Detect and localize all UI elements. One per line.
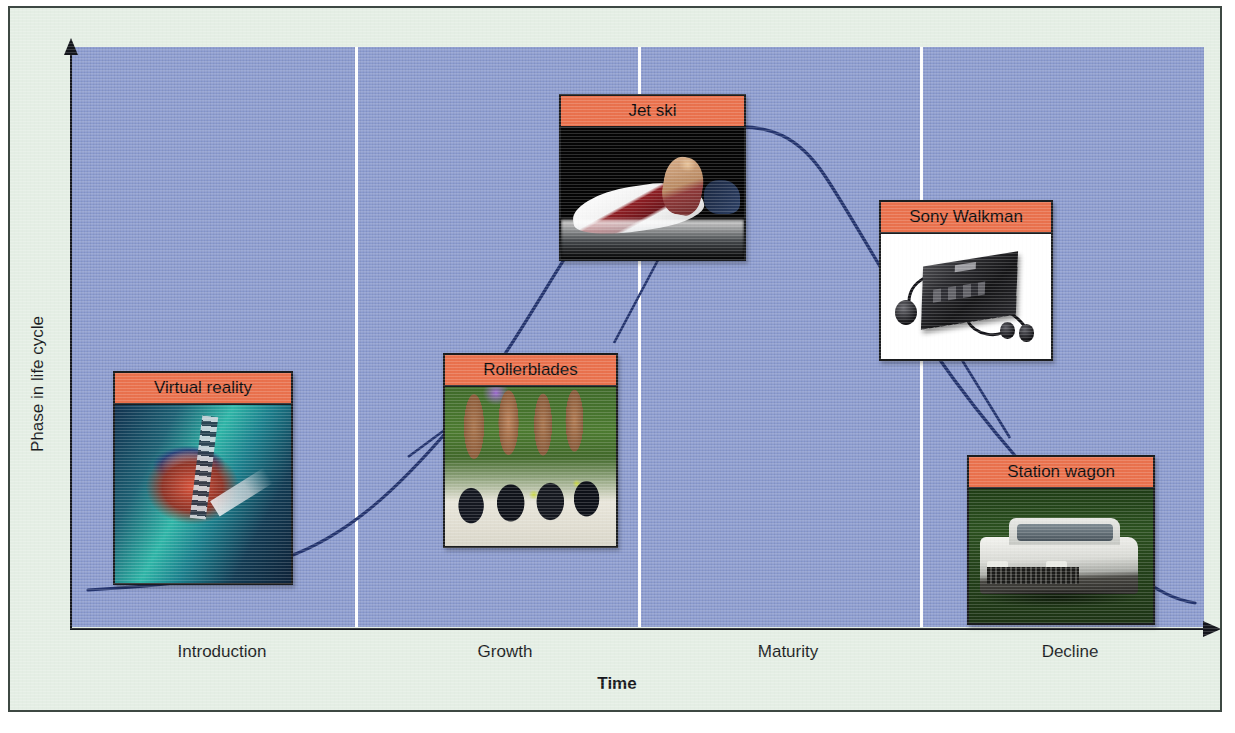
walkman-earbud-right-2	[1019, 324, 1034, 342]
card-title-jet-ski: Jet ski	[561, 96, 744, 128]
phase-divider-introduction-growth	[355, 47, 358, 627]
jet-ski-rear-shape	[704, 180, 741, 214]
x-axis-title: Time	[10, 674, 1222, 694]
station-wagon-shadow	[976, 591, 1138, 607]
x-tick-label-decline: Decline	[960, 642, 1180, 662]
y-axis-title: Phase in life cycle	[28, 299, 48, 469]
y-axis-line	[70, 53, 72, 630]
card-rollerblades[interactable]: Rollerblades	[443, 353, 618, 548]
jet-ski-rider-figure	[659, 154, 709, 218]
x-axis-line	[70, 628, 1205, 630]
walkman-earbud-left	[895, 300, 917, 325]
card-sony-walkman[interactable]: Sony Walkman	[879, 200, 1053, 361]
station-wagon-car-photo	[969, 489, 1153, 623]
card-title-station-wagon: Station wagon	[969, 457, 1153, 489]
jet-ski-rider-photo	[561, 128, 744, 259]
virtual-reality-headset-photo	[115, 405, 291, 583]
product-life-cycle-figure: Phase in life cycle Introduction Growth …	[8, 6, 1222, 712]
x-tick-label-growth: Growth	[395, 642, 615, 662]
station-wagon-windshield	[1017, 524, 1113, 541]
sony-walkman-cassette-player-photo	[881, 234, 1051, 359]
x-tick-label-maturity: Maturity	[678, 642, 898, 662]
card-station-wagon[interactable]: Station wagon	[967, 455, 1155, 625]
card-jet-ski[interactable]: Jet ski	[559, 94, 746, 261]
y-axis-arrow-icon	[64, 38, 78, 55]
card-virtual-reality[interactable]: Virtual reality	[113, 371, 293, 585]
x-tick-label-introduction: Introduction	[112, 642, 332, 662]
card-title-virtual-reality: Virtual reality	[115, 373, 291, 405]
station-wagon-grille	[987, 567, 1079, 584]
x-axis-arrow-icon	[1203, 621, 1221, 637]
rollerblades-legs-photo	[445, 387, 616, 546]
card-title-rollerblades: Rollerblades	[445, 355, 616, 387]
card-title-sony-walkman: Sony Walkman	[881, 202, 1051, 234]
